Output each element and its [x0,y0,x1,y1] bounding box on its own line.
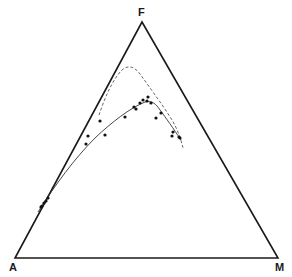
data-point [146,95,149,98]
data-point [44,199,47,202]
data-point [40,204,43,207]
lower-trend-curve [38,101,181,212]
data-point [159,111,162,114]
data-point [149,101,152,104]
data-point [123,115,126,118]
ternary-triangle [15,22,278,258]
data-point [154,116,157,119]
vertex-label-f: F [138,6,145,18]
data-point [141,98,144,101]
data-points [39,95,181,208]
data-point [86,134,89,137]
data-point [98,119,101,122]
data-point [178,136,181,139]
data-point [170,134,173,137]
data-point [103,133,106,136]
data-point [84,142,87,145]
data-point [138,101,141,104]
vertex-label-m: M [275,261,284,273]
data-point [145,99,148,102]
afm-ternary-diagram: F A M [0,0,292,277]
data-point [134,107,137,110]
vertex-label-a: A [9,261,17,273]
data-point [46,196,49,199]
data-point [171,130,174,133]
